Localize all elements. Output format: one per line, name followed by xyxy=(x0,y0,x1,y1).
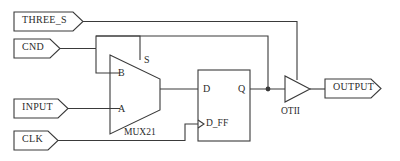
buffer-block-label: OTII xyxy=(281,106,300,116)
mux-pin-label-a: A xyxy=(118,103,125,114)
mux-pin-label-b: B xyxy=(118,67,125,78)
junction-dot-q-net xyxy=(266,87,271,92)
wire-mux-select xyxy=(96,36,140,60)
dff-body[interactable] xyxy=(198,70,250,141)
port-label-input: INPUT xyxy=(22,101,53,112)
mux-pin-label-s: S xyxy=(144,54,150,65)
port-label-three-s: THREE_S xyxy=(22,14,67,25)
port-label-output: OUTPUT xyxy=(333,81,374,92)
schematic-canvas: THREE_S CND INPUT CLK OUTPUT S B A MUX21… xyxy=(0,0,400,161)
dff-pin-label-q: Q xyxy=(238,83,245,94)
port-label-clk: CLK xyxy=(22,133,43,144)
dff-pin-label-d: D xyxy=(203,83,210,94)
dff-block-label: D_FF xyxy=(206,118,228,128)
port-label-cnd: CND xyxy=(22,41,44,52)
mux-block-label: MUX21 xyxy=(124,127,156,137)
